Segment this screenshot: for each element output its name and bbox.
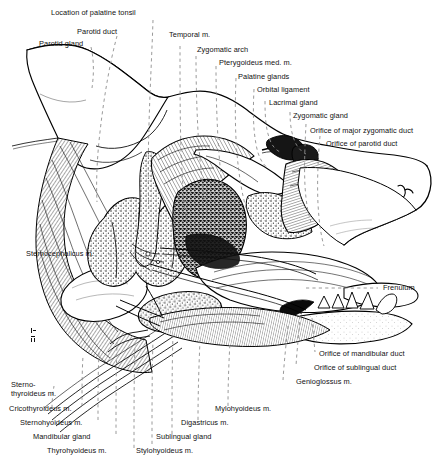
leader-orbital-ligament — [253, 89, 268, 168]
label-parotid-gland: Parotid gland — [39, 40, 83, 49]
label-temporal-m: Temporal m. — [169, 31, 210, 40]
leader-digastricus-m — [198, 340, 200, 420]
label-lacrimal-gland: Lacrimal gland — [269, 99, 318, 108]
label-thyrohyoideus-m: Thyrohyoideus m. — [47, 447, 107, 456]
label-sublingual-gland: Sublingual gland — [156, 433, 211, 442]
leader-cricothyroideus-m — [82, 356, 83, 406]
parotid-gland-body — [27, 45, 168, 169]
leader-palatine-glands — [235, 78, 246, 208]
label-orifice-of-parotid-duct: Orifice of parotid duct — [326, 140, 397, 149]
label-mylohyoideus-m: Mylohyoideus m. — [215, 405, 271, 414]
upper-lip-region — [298, 167, 416, 245]
label-sternothyroideus-m: Sterno-thyroideus m. — [11, 381, 81, 398]
label-palatine-glands: Palatine glands — [238, 73, 289, 82]
label-sternohyoideus-m: Sternohyoideus m. — [20, 419, 82, 428]
anatomy-figure-plate: Location of palatine tonsil Parotid duct… — [0, 0, 437, 463]
leader-mylohyoideus-m — [228, 342, 230, 406]
leader-sternohyoideus-m — [98, 352, 99, 420]
label-orifice-of-sublingual-duct: Orifice of sublingual duct — [314, 364, 396, 373]
label-location-of-palatine-tonsil: Location of palatine tonsil — [51, 9, 136, 18]
label-genioglossus-m: Genioglossus m. — [296, 378, 352, 387]
label-zygomatic-gland: Zygomatic gland — [293, 112, 348, 121]
skin-margin-line — [12, 138, 58, 149]
artist-signature — [31, 328, 36, 342]
label-orifice-of-major-zygomatic-duct: Orifice of major zygomatic duct — [310, 127, 413, 136]
label-sternothyroideus-m-line2: thyroideus m. — [11, 389, 56, 398]
label-frenulum: Frenulum — [383, 284, 415, 293]
label-orifice-of-mandibular-duct: Orifice of mandibular duct — [319, 350, 405, 359]
leader-stylohyoideus-m — [152, 340, 153, 444]
label-parotid-duct: Parotid duct — [77, 28, 117, 37]
label-mandibular-gland: Mandibular gland — [33, 433, 91, 442]
label-orbital-ligament: Orbital ligament — [257, 86, 310, 95]
label-cricothyroideus-m: Cricothyroideus m. — [9, 405, 72, 414]
leader-sublingual-gland — [172, 334, 173, 434]
label-zygomatic-arch: Zygomatic arch — [197, 46, 248, 55]
label-stylohyoideus-m: Stylohyoideus m. — [136, 447, 193, 456]
mylohyoideus-digastricus-sheet — [150, 307, 330, 346]
label-digastricus-m: Digastricus m. — [181, 419, 229, 428]
label-sternocephalicus-m: Sternocephalicus m. — [26, 250, 94, 259]
label-pterygoideus-med-m: Pterygoideus med. m. — [219, 59, 292, 68]
